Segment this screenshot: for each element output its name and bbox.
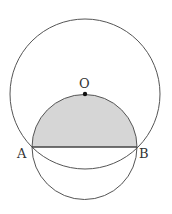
label-a: A [16,146,27,161]
shaded-semicircle [32,95,137,147]
geometry-diagram: O A B [0,0,172,214]
label-b: B [139,146,149,161]
point-o-marker [83,92,87,96]
label-o: O [79,76,90,91]
